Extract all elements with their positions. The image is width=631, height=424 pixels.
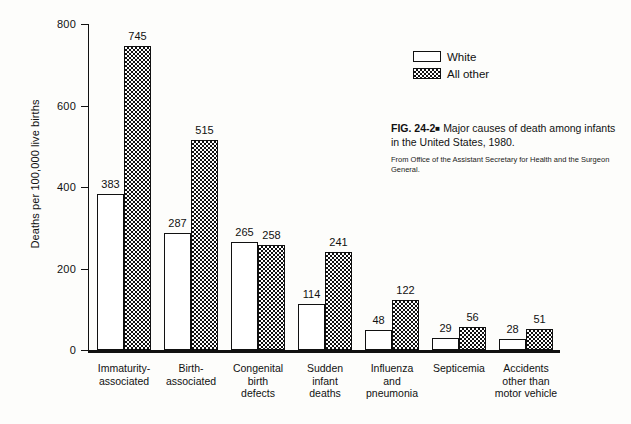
bar-white-3 (298, 304, 325, 350)
y-tick-0 (81, 350, 88, 351)
bar-white-6 (499, 339, 526, 350)
figure-caption: FIG. 24-2■ Major causes of death among i… (391, 122, 623, 175)
caption-figure-number: FIG. 24-2 (391, 122, 435, 134)
figure-container: 800 600 400 200 0 Deaths per 100,000 liv… (0, 0, 631, 424)
bar-value-other-1: 515 (186, 124, 223, 136)
bar-value-white-4: 48 (360, 314, 397, 326)
bar-value-other-5: 56 (454, 311, 491, 323)
bar-other-3 (325, 252, 352, 350)
bar-value-other-0: 745 (119, 30, 156, 42)
white-box-icon (413, 51, 441, 62)
bar-value-white-0: 383 (92, 178, 129, 190)
x-axis-line (88, 350, 560, 353)
bar-value-other-6: 51 (521, 313, 558, 325)
bar-value-white-5: 29 (427, 322, 464, 334)
bar-other-0 (124, 46, 151, 350)
bar-value-other-2: 258 (253, 229, 290, 241)
bar-white-1 (164, 233, 191, 350)
caption-bullet-icon: ■ (435, 124, 440, 133)
legend-item-white: White (413, 49, 489, 64)
bar-value-white-3: 114 (293, 288, 330, 300)
bar-other-2 (258, 245, 285, 350)
bar-white-2 (231, 242, 258, 350)
bar-white-4 (365, 330, 392, 350)
bar-other-1 (191, 140, 218, 350)
caption-source: From Office of the Assistant Secretary f… (391, 155, 623, 175)
legend-label-white: White (447, 51, 476, 63)
bar-chart: 800 600 400 200 0 Deaths per 100,000 liv… (0, 0, 631, 424)
caption-main-text: FIG. 24-2■ Major causes of death among i… (391, 122, 623, 149)
bars-layer: 383 745 287 515 265 258 114 241 48 122 (0, 0, 631, 350)
chart-legend: White All other (413, 49, 489, 83)
bar-value-other-4: 122 (387, 284, 424, 296)
legend-item-all-other: All other (413, 66, 489, 81)
checkered-box-icon (413, 68, 441, 79)
legend-label-all-other: All other (447, 68, 489, 80)
bar-white-0 (97, 194, 124, 350)
bar-white-5 (432, 338, 459, 350)
bar-value-white-1: 287 (159, 217, 196, 229)
bar-value-other-3: 241 (320, 236, 357, 248)
x-category-label-6: Accidents other than motor vehicle (476, 362, 576, 400)
